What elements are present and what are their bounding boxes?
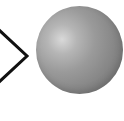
diagram-canvas xyxy=(0,0,124,121)
sphere xyxy=(36,6,123,94)
